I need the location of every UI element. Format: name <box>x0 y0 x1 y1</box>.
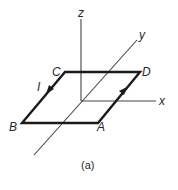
current-loop-diagram: z y x C D B A I (a) <box>0 0 178 190</box>
x-axis-label: x <box>158 94 166 108</box>
corner-label-a: A <box>96 120 105 134</box>
corner-label-c: C <box>52 65 61 79</box>
y-axis-label: y <box>138 28 146 42</box>
current-label: I <box>37 80 41 94</box>
z-axis-label: z <box>77 6 84 20</box>
corner-label-d: D <box>142 65 151 79</box>
corner-label-b: B <box>9 120 17 134</box>
y-axis <box>34 40 137 155</box>
figure-caption: (a) <box>81 159 94 171</box>
